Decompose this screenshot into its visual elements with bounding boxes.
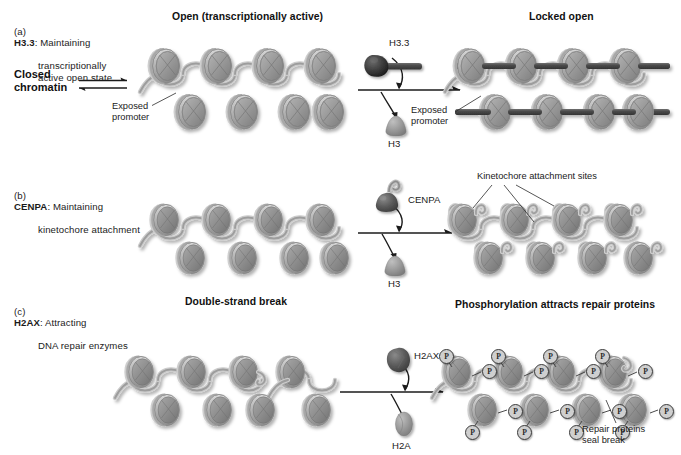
repair-proteins-label: Repair proteins seal break bbox=[582, 424, 681, 446]
panel-c-letter: (c) bbox=[14, 306, 26, 317]
phosphate-badge: P bbox=[534, 364, 549, 379]
protein-label-h3-a: H3 bbox=[388, 138, 400, 149]
protein-label-h2a: H2A bbox=[392, 440, 411, 451]
panel-b-caption-head: : Maintaining bbox=[47, 201, 103, 212]
panel-c-caption: (c) H2AX: Attracting DNA repair enzymes bbox=[14, 294, 184, 352]
phosphate-badge: P bbox=[586, 364, 601, 379]
panel-a-caption-head: : Maintaining bbox=[35, 37, 91, 48]
panel-c-right-heading: Phosphorylation attracts repair proteins bbox=[455, 299, 655, 310]
phosphate-badge: P bbox=[560, 404, 575, 419]
panel-c-gene: H2AX bbox=[14, 317, 40, 328]
protein-label-h2ax: H2AX bbox=[414, 350, 439, 361]
closed-chromatin-label: Closed chromatin bbox=[14, 68, 78, 93]
exposed-promoter-label-right: Exposed promoter bbox=[411, 105, 463, 127]
panel-b-gene: CENPA bbox=[14, 201, 47, 212]
panel-b-caption-lines: kinetochore attachment bbox=[14, 224, 140, 236]
panel-a-left-heading: Open (transcriptionally active) bbox=[172, 11, 323, 22]
phosphate-badge: P bbox=[638, 364, 653, 379]
panel-a-letter: (a) bbox=[14, 26, 26, 37]
protein-label-cenpa: CENPA bbox=[408, 194, 440, 205]
phosphate-badge: P bbox=[465, 425, 480, 440]
panel-a-right-heading: Locked open bbox=[529, 11, 594, 22]
panel-b-letter: (b) bbox=[14, 190, 26, 201]
panel-a-gene: H3.3 bbox=[14, 37, 35, 48]
protein-label-h33: H3.3 bbox=[389, 37, 409, 48]
phosphate-badge: P bbox=[612, 404, 627, 419]
phosphate-badge: P bbox=[491, 349, 506, 364]
phosphate-badge: P bbox=[595, 349, 610, 364]
kinetochore-sites-label: Kinetochore attachment sites bbox=[477, 171, 597, 182]
protein-label-h3-b: H3 bbox=[388, 278, 400, 289]
phosphate-badge: P bbox=[543, 349, 558, 364]
exposed-promoter-label-left: Exposed promoter bbox=[112, 101, 162, 123]
phosphate-badge: P bbox=[508, 404, 523, 419]
panel-c-left-heading: Double-strand break bbox=[185, 296, 287, 307]
panel-c-caption-head: : Attracting bbox=[40, 317, 87, 328]
phosphate-badge: P bbox=[517, 425, 532, 440]
phosphate-badge: P bbox=[482, 364, 497, 379]
panel-b-caption: (b) CENPA: Maintaining kinetochore attac… bbox=[14, 178, 194, 236]
phosphate-badge: P bbox=[659, 404, 674, 419]
panel-c-caption-lines: DNA repair enzymes bbox=[14, 340, 128, 352]
phosphate-badge: P bbox=[439, 349, 454, 364]
